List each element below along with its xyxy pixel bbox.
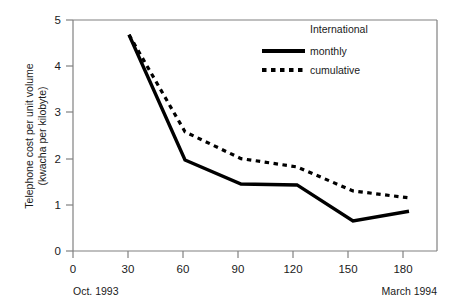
chart-background: [0, 0, 455, 306]
y-tick-label-3: 3: [55, 106, 61, 118]
y-axis-title-line1: Telephone cost per unit volume: [23, 63, 35, 208]
x-tick-label-30: 30: [122, 263, 135, 275]
x-tick-label-180: 180: [393, 263, 412, 275]
y-axis-title-line2: (kwacha per kilobyte): [36, 86, 48, 185]
x-tick-label-0: 0: [70, 263, 76, 275]
end-period-label: March 1994: [382, 285, 438, 297]
y-tick-label-0: 0: [55, 245, 61, 257]
y-tick-label-4: 4: [55, 60, 62, 72]
chart-figure: 5 4 3 2 1 0 0 30 60 90 120 150 180: [0, 0, 455, 306]
x-tick-label-90: 90: [232, 263, 245, 275]
y-tick-label-2: 2: [55, 153, 61, 165]
x-tick-label-120: 120: [283, 263, 302, 275]
y-tick-label-5: 5: [55, 14, 61, 26]
x-tick-label-60: 60: [177, 263, 190, 275]
legend-label-monthly: monthly: [310, 45, 348, 57]
legend-title: International: [310, 23, 368, 35]
x-tick-label-150: 150: [338, 263, 357, 275]
y-tick-label-1: 1: [55, 199, 61, 211]
line-chart: 5 4 3 2 1 0 0 30 60 90 120 150 180: [0, 0, 455, 306]
legend-label-cumulative: cumulative: [310, 64, 360, 76]
start-period-label: Oct. 1993: [73, 285, 119, 297]
